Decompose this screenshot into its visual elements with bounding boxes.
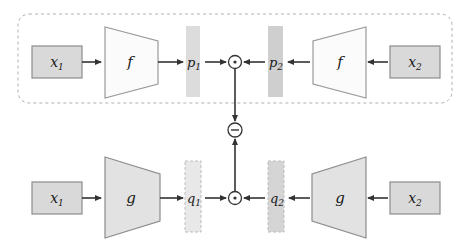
top-product-node-dot-icon (233, 60, 236, 63)
bottom-product-node-dot-icon (233, 196, 236, 199)
bottom-right-encoder-label: g (335, 189, 345, 207)
architecture-diagram: x1 f p1 p2 f (0, 0, 470, 252)
bottom-left-encoder-label: g (126, 189, 136, 207)
